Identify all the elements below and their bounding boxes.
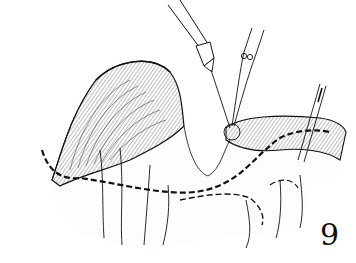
surgical-illustration	[0, 0, 356, 263]
forceps	[232, 28, 264, 126]
figure-number: 9	[320, 220, 339, 250]
